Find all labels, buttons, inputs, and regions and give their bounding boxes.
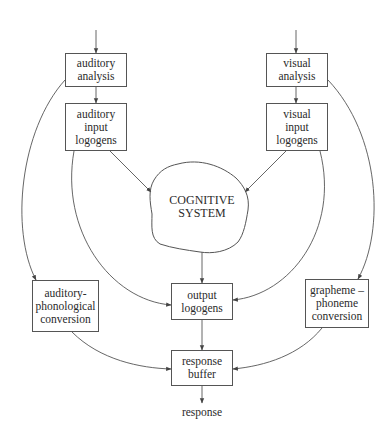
node-label: auditory input logogens [75,108,117,147]
node-visual-analysis: visual analysis [266,53,328,87]
node-auditory-phonological-conversion: auditory- phonological conversion [32,280,99,332]
node-label: grapheme – phoneme conversion [310,284,364,323]
edge-visual-logogens-to-cognitive [245,151,286,192]
edge-apc-to-buffer [72,332,171,369]
edge-visual-analysis-to-gpc [328,80,374,279]
node-visual-input-logogens: visual input logogens [266,103,328,151]
node-label: auditory analysis [77,57,115,83]
node-auditory-analysis: auditory analysis [65,53,127,87]
node-response: response [162,406,242,419]
node-label: visual analysis [278,57,315,83]
edge-visual-logogens-to-output [233,151,324,300]
node-label: auditory- phonological conversion [35,287,95,326]
node-grapheme-phoneme-conversion: grapheme – phoneme conversion [305,279,369,328]
node-label: output logogens [181,289,223,315]
edge-gpc-to-buffer [233,328,322,369]
edge-auditory-analysis-to-apc [22,80,65,280]
node-cognitive-system: COGNITIVE SYSTEM [160,194,244,220]
node-response-buffer: response buffer [171,350,233,386]
node-label: response buffer [182,355,222,381]
node-auditory-input-logogens: auditory input logogens [65,103,127,151]
node-label: visual input logogens [276,108,318,147]
edge-auditory-logogens-to-cognitive [110,151,151,192]
node-output-logogens: output logogens [171,283,233,320]
